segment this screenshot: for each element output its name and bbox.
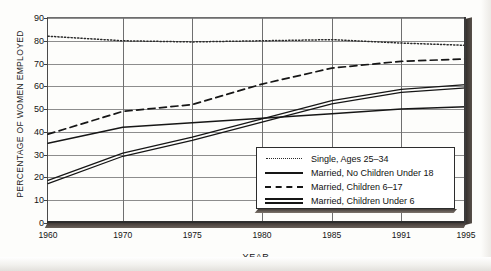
y-tick-label: 0 [39,218,44,228]
y-tick-label: 20 [34,172,44,182]
legend-item-label: Married, Children 6–17 [311,182,403,192]
y-axis-title: PERCENTAGE OF WOMEN EMPLOYED [15,11,25,217]
legend-shadow [255,209,457,213]
legend-item: Married, Children Under 6 [257,194,454,208]
scan-edge-right [481,0,491,271]
chart-legend: Single, Ages 25–34Married, No Children U… [256,147,455,209]
x-tick-label: 1980 [253,230,272,240]
y-tick-label: 10 [34,195,44,205]
x-tick-label: 1960 [39,230,58,240]
series-line [48,36,466,45]
frame-shadow-right [465,17,472,225]
x-tick-label: 1985 [322,230,341,240]
x-tick-label: 1975 [183,230,202,240]
x-tick-label: 1970 [113,230,132,240]
legend-line-swatch-dashed [264,182,304,192]
x-tick-label: 1995 [457,230,476,240]
y-tick-label: 40 [34,127,44,137]
legend-item: Married, No Children Under 18 [257,166,454,180]
y-tick-label: 90 [34,13,44,23]
x-axis-line [47,221,466,223]
legend-line-swatch-double [264,196,304,206]
series-line [48,107,466,143]
legend-item-label: Married, No Children Under 18 [311,168,434,178]
legend-line-swatch-solid [264,168,304,178]
legend-item-label: Married, Children Under 6 [311,196,415,206]
chart-figure: PERCENTAGE OF WOMEN EMPLOYED 01020304050… [0,0,491,271]
scan-edge-bottom [0,257,491,271]
y-tick-label: 80 [34,36,44,46]
y-tick-label: 50 [34,104,44,114]
legend-line-swatch-dotted [264,154,304,164]
legend-item: Single, Ages 25–34 [257,152,454,166]
y-tick-label: 30 [34,150,44,160]
y-tick-label: 60 [34,81,44,91]
legend-item: Married, Children 6–17 [257,180,454,194]
y-tick-label: 70 [34,59,44,69]
legend-item-label: Single, Ages 25–34 [311,154,389,164]
x-tick-label: 1991 [392,230,411,240]
right-axis-line [464,17,466,223]
